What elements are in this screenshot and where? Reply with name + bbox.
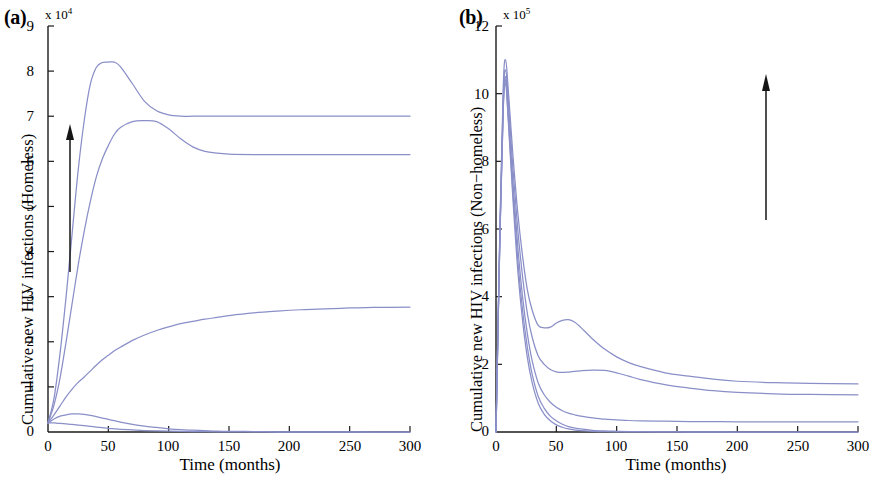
panel-a-ticks bbox=[48, 26, 410, 432]
panel-b-curves bbox=[496, 60, 858, 432]
curve-curve-1-highest bbox=[48, 62, 410, 423]
panel-a-arrow-head bbox=[66, 124, 74, 140]
panel-a-arrow bbox=[66, 124, 74, 272]
curve-curve-2 bbox=[496, 70, 858, 432]
panel-b-arrow bbox=[762, 74, 770, 220]
panel-a: (a) x 104 Cumulative new HIV infections … bbox=[0, 0, 440, 483]
panel-b-plot bbox=[441, 0, 881, 483]
panel-a-axes bbox=[48, 26, 410, 432]
curve-curve-5-lowest bbox=[496, 83, 858, 432]
curve-curve-4 bbox=[496, 80, 858, 432]
figure-container: (a) x 104 Cumulative new HIV infections … bbox=[0, 0, 881, 483]
panel-a-plot bbox=[0, 0, 440, 483]
curve-curve-1-highest bbox=[496, 60, 858, 432]
curve-curve-2 bbox=[48, 121, 410, 423]
panel-b-ticks bbox=[496, 26, 858, 432]
panel-a-curves bbox=[48, 62, 410, 432]
panel-b-axes bbox=[496, 26, 858, 432]
curve-curve-3-middle bbox=[496, 77, 858, 432]
curve-curve-3-middle bbox=[48, 307, 410, 423]
panel-b: (b) x 105 Cumulative new HIV infections … bbox=[441, 0, 881, 483]
panel-b-arrow-head bbox=[762, 74, 770, 91]
